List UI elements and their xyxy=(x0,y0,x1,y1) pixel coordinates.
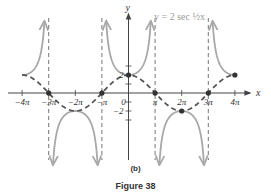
data-point xyxy=(126,72,131,77)
y-tick-label: 2 xyxy=(119,70,124,80)
y-axis-label: y xyxy=(125,2,131,13)
x-axis-label: x xyxy=(255,87,261,98)
axes: xy xyxy=(8,2,261,160)
secant-branch-right xyxy=(213,23,235,75)
x-tick-label: −4π xyxy=(15,97,31,107)
subfigure-caption: (b) xyxy=(0,164,271,173)
secant-branch-down-right xyxy=(159,111,203,163)
x-tick-label: −2π xyxy=(68,97,84,107)
data-point xyxy=(232,72,237,77)
data-point xyxy=(99,90,104,95)
data-point xyxy=(206,90,211,95)
x-tick-label: π xyxy=(153,97,158,107)
equation-label: y = 2 sec ½x xyxy=(154,11,205,22)
x-tick-label: 4π xyxy=(230,97,240,107)
data-point xyxy=(179,108,184,113)
x-tick-label: −3π xyxy=(41,97,57,107)
secant-branch-down-left xyxy=(53,111,97,163)
data-point xyxy=(46,90,51,95)
data-point xyxy=(153,90,158,95)
x-tick-label: −π xyxy=(97,97,108,107)
secant-branch-left xyxy=(22,23,44,75)
x-tick-label: 3π xyxy=(203,97,214,107)
x-tick-label: 2π xyxy=(177,97,187,107)
y-tick-label: −2 xyxy=(113,106,124,116)
figure-caption: Figure 38 xyxy=(0,181,271,191)
